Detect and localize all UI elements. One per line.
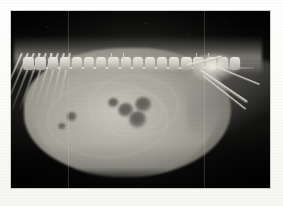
screenshot-root <box>0 0 283 206</box>
plate-vignette <box>11 11 270 188</box>
radiograph-plate <box>11 11 270 188</box>
